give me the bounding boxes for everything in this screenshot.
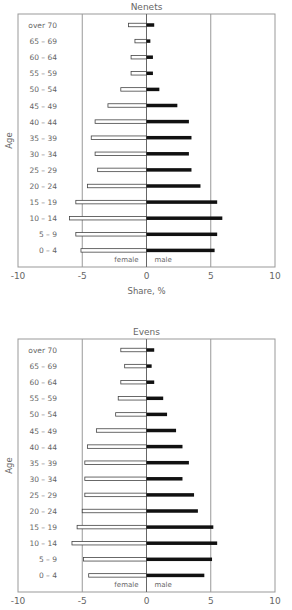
female-bar <box>69 216 146 220</box>
female-bar <box>98 168 147 172</box>
age-group-label: 60 – 64 <box>29 378 57 387</box>
male-bar <box>147 477 183 481</box>
age-group-label: 55 – 59 <box>29 69 57 78</box>
age-group-label: 20 – 24 <box>29 507 57 516</box>
female-bar <box>116 413 147 417</box>
x-tick-label: 10 <box>269 596 281 606</box>
female-bar <box>131 55 146 59</box>
male-annotation: male <box>155 581 172 589</box>
chart-nenets: Nenetsover 7065 – 6960 – 6455 – 5950 – 5… <box>0 0 292 300</box>
female-bar <box>121 380 147 384</box>
age-group-label: 50 – 54 <box>29 410 57 419</box>
male-bar <box>147 541 218 545</box>
x-tick-label: 5 <box>208 271 214 281</box>
female-bar <box>87 445 146 449</box>
female-bar <box>95 120 146 124</box>
male-bar <box>147 429 177 433</box>
male-bar <box>147 39 151 43</box>
male-bar <box>147 558 213 562</box>
female-bar <box>135 39 147 43</box>
female-bar <box>82 509 146 513</box>
age-group-label: 40 – 44 <box>29 443 57 452</box>
age-group-label: 25 – 29 <box>29 166 57 175</box>
female-bar <box>118 397 146 401</box>
female-bar <box>121 88 147 92</box>
age-group-label: 0 – 4 <box>39 246 57 255</box>
x-tick-label: 10 <box>269 271 281 281</box>
x-tick-label: 0 <box>144 271 150 281</box>
female-bar <box>85 477 147 481</box>
age-group-label: 30 – 34 <box>29 150 57 159</box>
age-group-label: 60 – 64 <box>29 53 57 62</box>
male-bar <box>147 104 178 108</box>
male-annotation: male <box>155 256 172 264</box>
female-bar <box>72 541 147 545</box>
male-bar <box>147 72 153 76</box>
male-bar <box>147 348 155 352</box>
age-group-label: 30 – 34 <box>29 475 57 484</box>
chart-svg: Evensover 7065 – 6960 – 6455 – 5950 – 54… <box>0 325 292 610</box>
chart-evens: Evensover 7065 – 6960 – 6455 – 5950 – 54… <box>0 325 292 610</box>
age-group-label: 55 – 59 <box>29 394 57 403</box>
male-bar <box>147 413 168 417</box>
female-bar <box>131 72 146 76</box>
male-bar <box>147 509 198 513</box>
female-bar <box>108 104 147 108</box>
female-annotation: female <box>114 256 138 264</box>
male-bar <box>147 216 223 220</box>
male-bar <box>147 200 218 204</box>
female-bar <box>91 136 146 140</box>
female-bar <box>76 200 147 204</box>
male-bar <box>147 168 192 172</box>
age-group-label: 0 – 4 <box>39 571 57 580</box>
x-axis-label: Share, % <box>127 286 165 296</box>
female-bar <box>76 233 147 237</box>
y-axis-label: Age <box>4 132 14 148</box>
male-bar <box>147 364 152 368</box>
y-axis-label: Age <box>4 457 14 473</box>
male-bar <box>147 525 214 529</box>
x-tick-label: -5 <box>78 271 87 281</box>
male-bar <box>147 136 192 140</box>
age-group-label: 45 – 49 <box>29 102 57 111</box>
x-tick-label: -10 <box>11 596 26 606</box>
male-bar <box>147 55 153 59</box>
age-group-label: 40 – 44 <box>29 118 57 127</box>
age-group-label: 45 – 49 <box>29 427 57 436</box>
male-bar <box>147 574 205 578</box>
male-bar <box>147 233 218 237</box>
female-bar <box>77 525 146 529</box>
male-bar <box>147 120 189 124</box>
chart-svg: Nenetsover 7065 – 6960 – 6455 – 5950 – 5… <box>0 0 292 300</box>
female-bar <box>89 574 147 578</box>
female-bar <box>85 461 147 465</box>
female-bar <box>121 348 147 352</box>
age-group-label: 5 – 9 <box>39 230 57 239</box>
age-group-label: 5 – 9 <box>39 555 57 564</box>
male-bar <box>147 461 189 465</box>
male-bar <box>147 249 215 253</box>
x-tick-label: 0 <box>144 596 150 606</box>
age-group-label: over 70 <box>28 346 57 355</box>
chart-title: Nenets <box>131 2 163 12</box>
age-group-label: 15 – 19 <box>29 198 57 207</box>
age-group-label: 25 – 29 <box>29 491 57 500</box>
age-group-label: over 70 <box>28 21 57 30</box>
male-bar <box>147 380 155 384</box>
age-group-label: 65 – 69 <box>29 37 57 46</box>
female-annotation: female <box>114 581 138 589</box>
age-group-label: 35 – 39 <box>29 459 57 468</box>
x-tick-label: -5 <box>78 596 87 606</box>
age-group-label: 65 – 69 <box>29 362 57 371</box>
male-bar <box>147 184 201 188</box>
male-bar <box>147 445 183 449</box>
age-group-label: 15 – 19 <box>29 523 57 532</box>
female-bar <box>129 23 147 27</box>
x-tick-label: -10 <box>11 271 26 281</box>
age-group-label: 10 – 14 <box>29 214 57 223</box>
male-bar <box>147 88 160 92</box>
age-group-label: 10 – 14 <box>29 539 57 548</box>
female-bar <box>87 184 146 188</box>
male-bar <box>147 397 164 401</box>
age-group-label: 20 – 24 <box>29 182 57 191</box>
